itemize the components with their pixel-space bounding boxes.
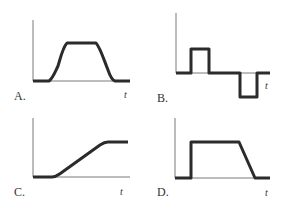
panel-b: B. t: [157, 13, 270, 105]
panel-d-t-label: t: [265, 187, 268, 198]
panel-a: A. t: [14, 20, 130, 103]
panel-a-t-label: t: [124, 89, 127, 100]
panel-a-label: A.: [14, 89, 26, 103]
panel-c-label: C.: [14, 185, 25, 199]
panel-a-curve: [33, 43, 130, 81]
panel-d-label: D.: [157, 185, 169, 199]
panel-d: D. t: [157, 118, 270, 199]
panel-c-t-label: t: [120, 186, 123, 197]
graph-options-figure: A. t B. t C. t D. t: [0, 0, 283, 211]
panel-c: C. t: [14, 118, 130, 199]
panel-c-curve: [33, 142, 128, 177]
panel-b-label: B.: [157, 91, 168, 105]
panel-d-curve: [175, 142, 270, 178]
panel-b-curve: [176, 49, 270, 97]
panel-b-t-label: t: [265, 80, 268, 91]
